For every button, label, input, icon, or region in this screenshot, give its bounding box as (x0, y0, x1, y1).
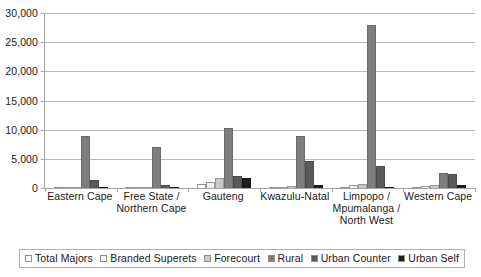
bar[interactable] (439, 173, 448, 188)
legend-swatch-icon (311, 255, 318, 262)
bar[interactable] (197, 184, 206, 188)
bar[interactable] (233, 176, 242, 188)
bar[interactable] (340, 187, 349, 189)
bar[interactable] (63, 187, 72, 189)
plot-wrapper: 05,00010,00015,00020,00025,00030,000 Eas… (0, 0, 481, 200)
y-tick-label: 30,000 (5, 8, 38, 19)
bar[interactable] (305, 161, 314, 188)
bar[interactable] (72, 187, 81, 189)
bar[interactable] (99, 187, 108, 189)
x-category-label-line: Western Cape (396, 190, 480, 202)
grouped-bar-chart: 05,00010,00015,00020,00025,00030,000 Eas… (0, 0, 481, 277)
bar[interactable] (278, 187, 287, 189)
bar[interactable] (143, 187, 152, 189)
bar-group (403, 13, 475, 188)
legend-swatch-icon (25, 255, 32, 262)
bar[interactable] (421, 186, 430, 188)
x-category-label-line: Mpumalanga / (325, 202, 409, 214)
plot-area (44, 13, 475, 188)
bar[interactable] (81, 136, 90, 189)
y-tick-label: 25,000 (5, 37, 38, 48)
bar-group (188, 13, 260, 188)
y-tick-label: 10,000 (5, 124, 38, 135)
bar[interactable] (385, 187, 394, 189)
bar-group (260, 13, 332, 188)
legend-label: Total Majors (35, 253, 93, 264)
legend-item[interactable]: Urban Self (398, 253, 459, 264)
legend-item[interactable]: Branded Superets (100, 253, 196, 264)
bar[interactable] (134, 187, 143, 189)
bar[interactable] (412, 187, 421, 189)
x-category-label-line: Northern Cape (110, 202, 194, 214)
legend-label: Branded Superets (110, 253, 196, 264)
bar[interactable] (349, 185, 358, 188)
bar[interactable] (376, 166, 385, 188)
legend-label: Urban Counter (321, 253, 391, 264)
bar-group (45, 13, 117, 188)
bar[interactable] (161, 185, 170, 189)
legend-swatch-icon (204, 255, 211, 262)
legend-label: Forecourt (214, 253, 260, 264)
bar[interactable] (358, 184, 367, 188)
bar[interactable] (296, 136, 305, 189)
bar-group (332, 13, 404, 188)
legend-label: Urban Self (408, 253, 459, 264)
bar[interactable] (457, 185, 466, 189)
bar[interactable] (448, 174, 457, 188)
bar[interactable] (430, 185, 439, 188)
y-tick-label: 15,000 (5, 95, 38, 106)
chart-legend: Total MajorsBranded SuperetsForecourtRur… (19, 249, 465, 268)
bar[interactable] (215, 178, 224, 189)
x-axis: Eastern CapeFree State /Northern CapeGau… (44, 190, 474, 240)
bar[interactable] (314, 185, 323, 188)
legend-swatch-icon (398, 255, 405, 262)
x-category-label-line: North West (325, 214, 409, 226)
bar[interactable] (170, 187, 179, 189)
y-tick-label: 5,000 (11, 154, 38, 165)
bar[interactable] (367, 25, 376, 188)
bar[interactable] (152, 147, 161, 188)
plot-inner (45, 13, 475, 188)
bar[interactable] (125, 187, 134, 189)
y-axis: 05,00010,00015,00020,00025,00030,000 (0, 0, 44, 200)
bar[interactable] (206, 182, 215, 188)
bar[interactable] (90, 180, 99, 188)
bar[interactable] (224, 128, 233, 188)
bar[interactable] (242, 178, 251, 188)
legend-item[interactable]: Total Majors (25, 253, 93, 264)
legend-swatch-icon (100, 255, 107, 262)
legend-item[interactable]: Rural (268, 253, 304, 264)
legend-item[interactable]: Forecourt (204, 253, 260, 264)
bar[interactable] (287, 186, 296, 188)
x-category-label: Western Cape (396, 190, 480, 202)
legend-item[interactable]: Urban Counter (311, 253, 391, 264)
bar[interactable] (54, 187, 63, 189)
legend-swatch-icon (268, 255, 275, 262)
bar-group (117, 13, 189, 188)
bar[interactable] (269, 187, 278, 189)
y-tick-label: 20,000 (5, 66, 38, 77)
legend-label: Rural (278, 253, 304, 264)
